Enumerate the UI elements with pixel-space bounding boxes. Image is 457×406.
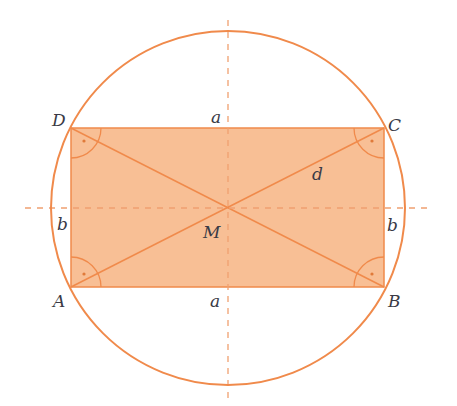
side-label-right-b: b <box>387 215 398 235</box>
side-label-bottom-a: a <box>210 291 220 311</box>
side-label-left-b: b <box>57 214 68 234</box>
vertex-label-c: C <box>388 115 401 135</box>
vertex-label-a: A <box>51 291 65 311</box>
vertex-label-b: B <box>387 291 401 311</box>
rectangle-circumcircle-diagram: D C A B M a a b b d <box>0 0 457 406</box>
diagonal-label-d: d <box>312 164 323 184</box>
vertex-label-d: D <box>51 110 66 130</box>
center-label-m: M <box>202 222 221 242</box>
side-label-top-a: a <box>211 107 221 127</box>
